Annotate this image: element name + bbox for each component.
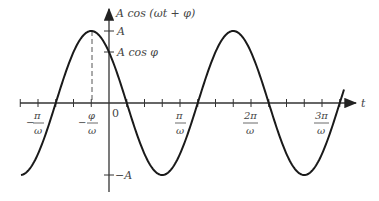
svg-text:−: −	[78, 117, 86, 128]
x-tick-label-neg-phi: − φ ω	[78, 110, 98, 136]
x-tick-label-neg-pi: − π ω	[26, 110, 44, 136]
svg-text:π: π	[33, 110, 41, 121]
x-tick-label-2pi: 2π ω	[243, 110, 258, 136]
y-tick-label-Acosphi: A cos φ	[116, 46, 158, 59]
svg-text:φ: φ	[88, 110, 95, 121]
x-axis-label: t	[361, 97, 366, 110]
svg-text:3π: 3π	[315, 110, 328, 121]
svg-text:ω: ω	[34, 125, 42, 136]
x-tick-label-pi: π ω	[175, 110, 186, 136]
svg-text:2π: 2π	[243, 110, 257, 121]
svg-text:ω: ω	[88, 125, 96, 136]
y-tick-label-A: A	[116, 25, 125, 38]
svg-text:π: π	[175, 110, 183, 121]
svg-text:ω: ω	[317, 125, 325, 136]
y-tick-label-negA: −A	[115, 169, 132, 182]
cosine-diagram: A cos (ωt + φ) A A cos φ −A t 0 − π ω − …	[0, 0, 379, 201]
x-tick-label-3pi: 3π ω	[314, 110, 329, 136]
svg-text:ω: ω	[176, 125, 184, 136]
svg-text:ω: ω	[246, 125, 254, 136]
y-axis-label: A cos (ωt + φ)	[115, 7, 195, 20]
origin-label: 0	[112, 107, 119, 120]
